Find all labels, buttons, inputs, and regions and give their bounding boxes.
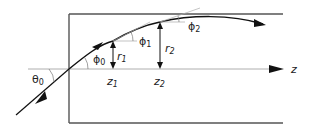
- phi2-label: ϕ2: [188, 20, 200, 34]
- phi1-angle-arc: [131, 32, 133, 41]
- medium-boundary: [69, 14, 283, 123]
- phi0-angle-arc: [85, 58, 88, 69]
- z2-label: z2: [153, 75, 165, 89]
- r1-down-arrow-icon: [110, 62, 116, 69]
- r1-label: r1: [117, 50, 127, 64]
- axis-arrowhead-icon: [269, 65, 284, 73]
- phi1-label: ϕ1: [139, 35, 151, 49]
- theta0-angle-arc: [49, 69, 54, 82]
- z1-label: z1: [106, 75, 118, 89]
- incident-ray: [16, 69, 69, 115]
- theta0-label: θ0: [32, 73, 44, 87]
- ray-diagram: z θ0 ϕ0 ϕ1 r1 z1 ϕ2 r2 z2: [0, 0, 314, 129]
- phi0-label: ϕ0: [93, 53, 105, 67]
- exit-ray-arrowhead-icon: [254, 19, 266, 27]
- r2-down-arrow-icon: [157, 62, 163, 69]
- r2-label: r2: [165, 42, 175, 56]
- z-axis-label: z: [290, 63, 297, 76]
